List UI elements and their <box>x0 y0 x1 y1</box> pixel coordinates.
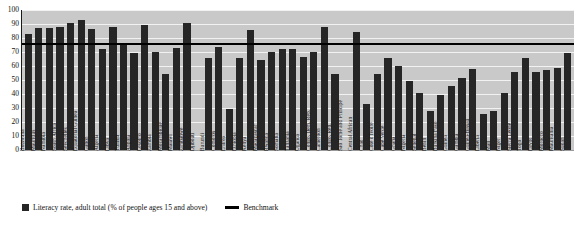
x-label-slot: Lesotho <box>139 150 150 198</box>
plot-wrapper <box>22 10 574 150</box>
x-label-slot: Rwanda <box>266 150 277 198</box>
bar-slot <box>266 10 277 150</box>
x-label-slot: Gambia <box>457 150 468 198</box>
x-axis-labels: BotswanaMauritiusNamibiaSouth AfricaSeyc… <box>22 150 574 198</box>
legend-entry-benchmark: Benchmark <box>225 203 278 212</box>
bar-slot <box>224 10 235 150</box>
bar-slot <box>488 10 499 150</box>
x-axis-tick-label: Mozambique <box>157 122 163 151</box>
legend-entry-literacy-rate: Literacy rate, adult total (% of people … <box>22 203 207 212</box>
y-tick-label-10: 10 <box>12 132 20 140</box>
bar <box>215 47 222 150</box>
x-label-slot: Equatorial Guinea <box>76 150 87 198</box>
bar-slot <box>203 10 214 150</box>
x-axis-tick-label: Morocco <box>538 131 544 151</box>
x-axis-tick-label: Seychelles <box>62 127 68 151</box>
bar-slot <box>192 10 203 150</box>
y-tick-label-90: 90 <box>12 20 20 28</box>
x-label-slot: Algeria <box>97 150 108 198</box>
x-axis-tick-label: Burkina Faso <box>432 122 438 152</box>
x-axis-tick-label: Libya <box>104 138 110 151</box>
x-axis-tick-label: Cameroon <box>315 128 321 151</box>
x-label-slot: Ghana <box>393 150 404 198</box>
x-label-slot: Eritrea <box>224 150 235 198</box>
y-tick-label-80: 80 <box>12 34 20 42</box>
x-axis-tick-label: Mauritania <box>548 127 554 151</box>
x-label-slot: Togo <box>520 150 531 198</box>
bar <box>511 72 518 150</box>
x-label-slot: Angola <box>129 150 140 198</box>
x-label-slot: Senegal <box>414 150 425 198</box>
bar <box>353 32 360 150</box>
y-tick-label-70: 70 <box>12 48 20 56</box>
bar <box>78 20 85 150</box>
benchmark-line <box>22 43 574 45</box>
x-axis-tick-label: Gabon <box>83 136 89 151</box>
x-axis-tick-label: Togo <box>516 140 522 151</box>
bar-slot <box>562 10 573 150</box>
bar <box>522 58 529 150</box>
x-axis-tick-label: Sudan <box>559 137 565 151</box>
x-label-slot: Zimbabwe <box>182 150 193 198</box>
x-label-slot: Guinea <box>446 150 457 198</box>
x-label-slot: Zambia <box>150 150 161 198</box>
x-axis-tick-label: Senegal <box>411 134 417 151</box>
x-axis-tick-label: Sierra Leone <box>506 123 512 151</box>
chart-legend: Literacy rate, adult total (% of people … <box>22 203 278 212</box>
bar-slot <box>108 10 119 150</box>
y-tick-label-60: 60 <box>12 62 20 70</box>
x-label-slot: Morocco <box>541 150 552 198</box>
bar <box>88 29 95 150</box>
line-swatch-icon <box>225 206 239 209</box>
x-label-slot: Congo, Rep. <box>330 150 341 198</box>
legend-label-literacy-rate: Literacy rate, adult total (% of people … <box>33 203 207 212</box>
bar-slot <box>393 10 404 150</box>
x-label-slot: Tanzania <box>287 150 298 198</box>
x-axis-tick-label: Central African <box>347 117 353 151</box>
bar-slot <box>287 10 298 150</box>
x-label-slot: Namibia <box>44 150 55 198</box>
x-axis-tick-label: Burundi <box>199 133 205 151</box>
x-axis-tick-label: Madagascar <box>252 124 258 151</box>
x-axis-tick-label: Nigeria <box>400 134 406 151</box>
x-axis-tick-label: Ghana <box>390 137 396 151</box>
bar-slot <box>446 10 457 150</box>
bar-slot <box>277 10 288 150</box>
bar-slot <box>86 10 97 150</box>
x-axis-tick-label: Zambia <box>146 134 152 151</box>
x-axis-tick-label: Mali <box>485 141 491 151</box>
bar <box>99 49 106 150</box>
x-label-slot: Nigeria <box>404 150 415 198</box>
x-axis-tick-label: Congo, Rep. <box>326 123 332 151</box>
x-label-slot: Burkina Faso <box>436 150 447 198</box>
x-axis-tick-label: Uganda <box>294 134 300 151</box>
x-axis-tick-label: Namibia <box>40 132 46 151</box>
x-axis-tick-label: Kenya <box>241 137 247 151</box>
x-label-slot: Comoros <box>213 150 224 198</box>
x-label-slot: Djibouti <box>192 150 203 198</box>
x-axis-tick-label: Lesotho <box>136 133 142 151</box>
x-axis-tick-label: Botswana <box>19 129 25 151</box>
square-swatch-icon <box>22 204 29 211</box>
x-label-slot: Benin <box>425 150 436 198</box>
x-label-slot: Cameroon <box>319 150 330 198</box>
bar-slot <box>414 10 425 150</box>
x-axis-tick-label: Chad <box>358 139 364 151</box>
x-axis-tick-label: Comoros <box>210 131 216 151</box>
x-label-slot: Somalia <box>277 150 288 198</box>
x-label-slot: Mauritius <box>34 150 45 198</box>
x-label-slot: Liberia <box>478 150 489 198</box>
bar-slot <box>129 10 140 150</box>
x-label-slot: Gabon <box>86 150 97 198</box>
x-label-slot: Ethiopia <box>235 150 246 198</box>
x-axis-tick-label: Cape Verde <box>379 126 385 151</box>
bar-slot <box>404 10 415 150</box>
bar-slot <box>531 10 542 150</box>
x-axis-tick-label: Ethiopia <box>231 132 237 151</box>
x-label-slot: Madagascar <box>256 150 267 198</box>
x-label-slot: Malawi <box>171 150 182 198</box>
x-axis-tick-label: Equatorial Guinea <box>72 111 78 151</box>
bar-slot <box>118 10 129 150</box>
x-label-slot: Tunisia <box>118 150 129 198</box>
bar-slot <box>213 10 224 150</box>
